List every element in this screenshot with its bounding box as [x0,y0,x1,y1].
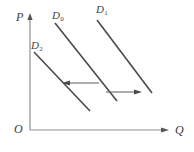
demand-curve-d2 [34,52,90,111]
figure-canvas [0,0,194,152]
curve-label-d2-subscript: 2 [39,45,43,53]
horizontal-axis-arrowhead [161,127,169,132]
curve-label-d2: D2 [31,40,42,51]
demand-curve-figure: P Q O D2 D0 D1 [0,0,194,152]
curve-label-d0: D0 [52,10,63,21]
origin-label: O [14,123,23,135]
y-axis-label: P [16,11,23,23]
x-axis-label: Q [175,124,184,136]
curve-label-d1-base: D [96,3,104,15]
curve-label-d0-base: D [52,9,60,21]
curve-label-d2-base: D [31,39,39,51]
curve-label-d0-subscript: 0 [60,15,64,23]
vertical-axis [27,13,32,130]
curve-label-d1-subscript: 1 [104,9,108,17]
curve-label-d1: D1 [96,4,107,15]
horizontal-axis [30,127,169,132]
leftward-shift-arrow [62,81,99,86]
demand-curve-d1 [97,20,152,93]
vertical-axis-arrowhead [27,13,32,20]
